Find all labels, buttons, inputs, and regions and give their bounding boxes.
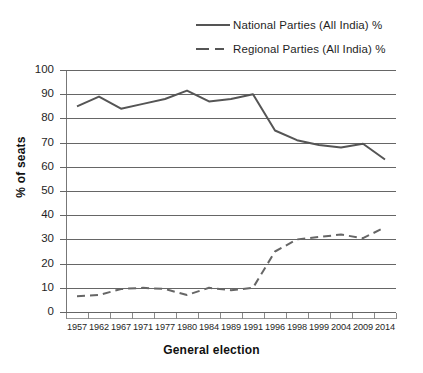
x-tick-mark [374, 313, 375, 319]
plot-area [66, 70, 396, 312]
legend-line-solid-icon [196, 19, 230, 31]
legend-label-national: National Parties (All India) % [233, 19, 382, 31]
x-tick-mark [66, 313, 67, 319]
x-axis-line [66, 318, 396, 319]
x-axis-title: General election [0, 343, 423, 357]
y-tick-label: 20 [20, 258, 54, 269]
x-tick-mark [132, 313, 133, 319]
y-tick-label: 0 [20, 306, 54, 317]
x-tick-mark [198, 313, 199, 319]
line-regional-parties [77, 227, 385, 296]
x-tick-mark [88, 313, 89, 319]
gridline [66, 312, 396, 313]
line-national-parties [77, 91, 385, 160]
y-tick-label: 50 [20, 185, 54, 196]
legend-entry-national: National Parties (All India) % [196, 14, 382, 36]
y-tick-label: 60 [20, 161, 54, 172]
x-tick-mark [110, 313, 111, 319]
x-tick-mark [396, 313, 397, 319]
chart-container: National Parties (All India) % Regional … [0, 0, 423, 373]
x-tick-label: 2014 [372, 322, 398, 332]
y-tick-label: 40 [20, 209, 54, 220]
legend-line-dashed-icon [196, 43, 230, 55]
x-tick-mark [264, 313, 265, 319]
x-tick-mark [220, 313, 221, 319]
y-tick-label: 100 [20, 64, 54, 75]
y-tick-label: 80 [20, 112, 54, 123]
y-tick-label: 10 [20, 282, 54, 293]
y-tick-label: 30 [20, 233, 54, 244]
x-tick-mark [308, 313, 309, 319]
x-tick-mark [154, 313, 155, 319]
x-tick-mark [286, 313, 287, 319]
x-tick-mark [242, 313, 243, 319]
x-tick-mark [352, 313, 353, 319]
y-tick-label: 90 [20, 88, 54, 99]
legend-label-regional: Regional Parties (All India) % [233, 43, 386, 55]
chart-legend: National Parties (All India) % Regional … [0, 12, 423, 60]
y-tick-label: 70 [20, 137, 54, 148]
x-tick-mark [330, 313, 331, 319]
series-lines [66, 70, 396, 312]
legend-entry-regional: Regional Parties (All India) % [196, 38, 386, 60]
x-tick-mark [176, 313, 177, 319]
